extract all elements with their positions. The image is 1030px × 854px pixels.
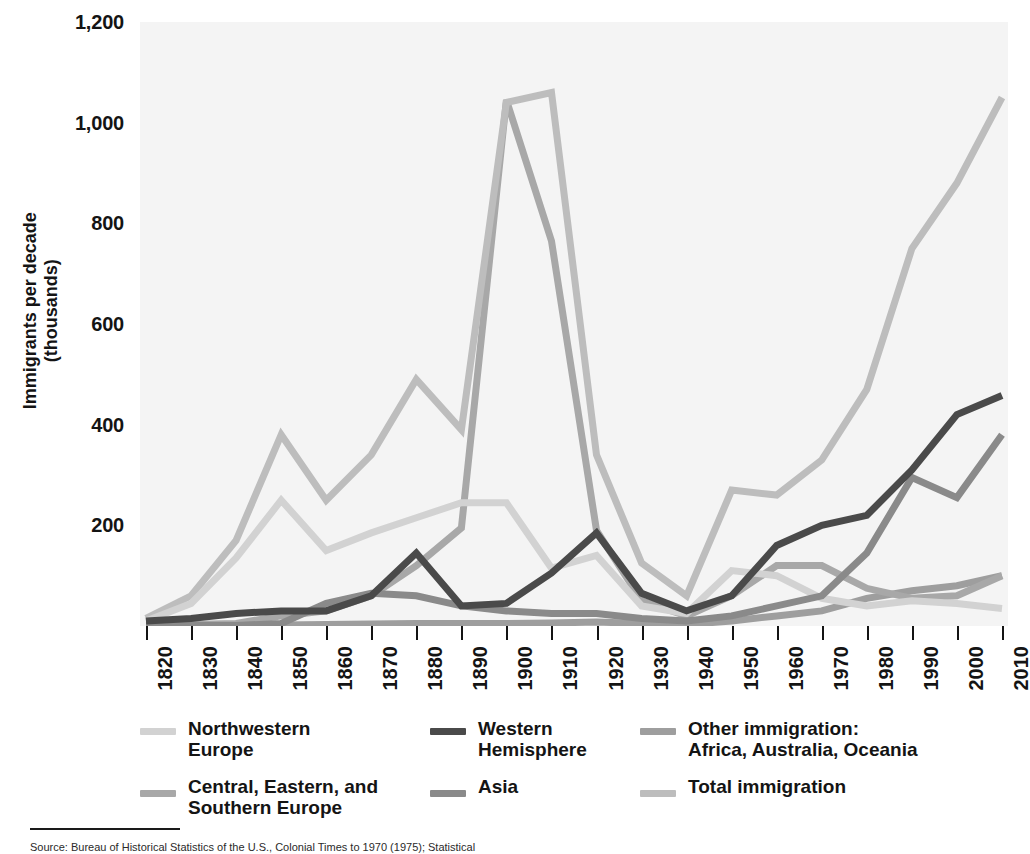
- x-tick-mark: [687, 626, 689, 640]
- x-tick-mark: [597, 626, 599, 640]
- x-axis: 1820183018401850186018701880189019001910…: [140, 626, 1008, 716]
- x-tick-label: 1890: [470, 646, 490, 691]
- legend-label: Total immigration: [688, 776, 846, 797]
- x-tick-mark: [957, 626, 959, 640]
- legend-column-2: Western HemisphereAsia: [430, 718, 630, 814]
- x-tick-mark: [326, 626, 328, 640]
- x-tick-mark: [236, 626, 238, 640]
- x-tick-label: 1920: [606, 646, 626, 691]
- legend-entry-central_eastern_southern_europe[interactable]: Central, Eastern, and Southern Europe: [140, 776, 378, 819]
- x-tick-label: 1950: [741, 646, 761, 691]
- x-tick-label: 1830: [200, 646, 220, 691]
- y-tick-label: 400: [91, 415, 124, 435]
- y-tick-label: 1,000: [75, 113, 124, 133]
- legend-swatch-icon: [140, 728, 176, 735]
- x-tick-label: 1820: [155, 646, 175, 691]
- y-tick-label: 200: [91, 515, 124, 535]
- x-tick-mark: [506, 626, 508, 640]
- legend-swatch-icon: [140, 790, 176, 797]
- plot-lines: [140, 22, 1008, 626]
- x-tick-mark: [416, 626, 418, 640]
- legend-swatch-icon: [640, 728, 676, 735]
- x-tick-label: 1880: [425, 646, 445, 691]
- legend-label: Asia: [478, 776, 518, 797]
- legend-label: Western Hemisphere: [478, 718, 587, 761]
- legend-label: Central, Eastern, and Southern Europe: [188, 776, 378, 819]
- x-tick-label: 1870: [380, 646, 400, 691]
- legend-entry-asia[interactable]: Asia: [430, 776, 518, 797]
- x-tick-label: 1980: [876, 646, 896, 691]
- legend-column-3: Other immigration: Africa, Australia, Oc…: [640, 718, 1020, 814]
- legend-entry-other_immigration[interactable]: Other immigration: Africa, Australia, Oc…: [640, 718, 918, 761]
- x-tick-label: 1930: [651, 646, 671, 691]
- x-tick-label: 1960: [786, 646, 806, 691]
- y-tick-label: 800: [91, 213, 124, 233]
- x-tick-mark: [371, 626, 373, 640]
- x-tick-label: 2000: [966, 646, 986, 691]
- y-tick-label: 600: [91, 314, 124, 334]
- x-tick-mark: [1002, 626, 1004, 640]
- x-tick-label: 1860: [335, 646, 355, 691]
- legend-entry-western_hemisphere[interactable]: Western Hemisphere: [430, 718, 587, 761]
- x-tick-label: 1850: [290, 646, 310, 691]
- legend-swatch-icon: [430, 728, 466, 735]
- legend-label: Northwestern Europe: [188, 718, 310, 761]
- x-tick-mark: [146, 626, 148, 640]
- x-tick-label: 1900: [515, 646, 535, 691]
- immigration-line-chart-figure: Immigrants per decade (thousands) 1,2001…: [0, 0, 1030, 854]
- source-note: Source: Bureau of Historical Statistics …: [30, 840, 1010, 854]
- x-tick-mark: [642, 626, 644, 640]
- x-tick-mark: [461, 626, 463, 640]
- x-tick-mark: [191, 626, 193, 640]
- x-tick-mark: [867, 626, 869, 640]
- x-tick-mark: [281, 626, 283, 640]
- legend-swatch-icon: [430, 790, 466, 797]
- x-tick-mark: [822, 626, 824, 640]
- x-tick-mark: [777, 626, 779, 640]
- x-tick-mark: [732, 626, 734, 640]
- chart-legend: Northwestern EuropeCentral, Eastern, and…: [140, 718, 1020, 814]
- x-tick-mark: [551, 626, 553, 640]
- legend-swatch-icon: [640, 790, 676, 797]
- legend-column-1: Northwestern EuropeCentral, Eastern, and…: [140, 718, 430, 814]
- legend-label: Other immigration: Africa, Australia, Oc…: [688, 718, 918, 761]
- x-tick-mark: [912, 626, 914, 640]
- source-divider: [30, 828, 180, 830]
- x-tick-label: 1910: [560, 646, 580, 691]
- legend-entry-northwestern_europe[interactable]: Northwestern Europe: [140, 718, 310, 761]
- x-tick-label: 1840: [245, 646, 265, 691]
- legend-entry-total_immigration[interactable]: Total immigration: [640, 776, 846, 797]
- x-tick-label: 1940: [696, 646, 716, 691]
- x-tick-label: 2010: [1011, 646, 1030, 691]
- series-line: [146, 500, 1002, 621]
- x-tick-label: 1990: [921, 646, 941, 691]
- x-tick-label: 1970: [831, 646, 851, 691]
- y-axis-tick-labels: 1,2001,000800600400200: [0, 22, 132, 626]
- y-tick-label: 1,200: [75, 12, 124, 32]
- plot-area: [140, 22, 1008, 626]
